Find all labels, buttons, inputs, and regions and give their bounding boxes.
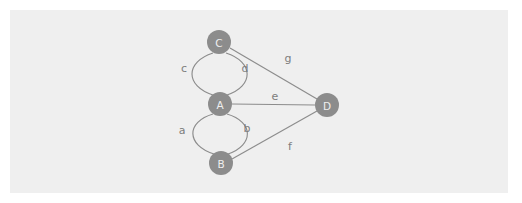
edge-label-b: b xyxy=(244,122,251,135)
node-C[interactable]: C xyxy=(207,30,231,54)
node-label-C: C xyxy=(215,37,222,49)
edge-label-a: a xyxy=(179,124,186,137)
edge-label-c: c xyxy=(181,62,187,75)
node-B[interactable]: B xyxy=(209,151,233,175)
node-D[interactable]: D xyxy=(315,93,339,117)
node-label-D: D xyxy=(323,100,331,112)
edge-label-group: c d a b e f g xyxy=(179,52,293,153)
edge-e xyxy=(232,104,315,105)
edge-f xyxy=(232,111,317,159)
edge-label-f: f xyxy=(288,140,293,153)
edge-label-e: e xyxy=(272,90,279,103)
node-group: C A B D xyxy=(207,30,339,175)
edge-label-g: g xyxy=(285,52,292,65)
graph-figure: c d a b e f g C A B D xyxy=(0,0,522,203)
edge-c xyxy=(192,53,213,95)
node-label-B: B xyxy=(217,158,224,170)
edge-a xyxy=(193,114,214,154)
node-A[interactable]: A xyxy=(208,92,232,116)
edge-label-d: d xyxy=(242,62,249,75)
node-label-A: A xyxy=(216,99,224,111)
graph-canvas: c d a b e f g C A B D xyxy=(0,0,522,203)
